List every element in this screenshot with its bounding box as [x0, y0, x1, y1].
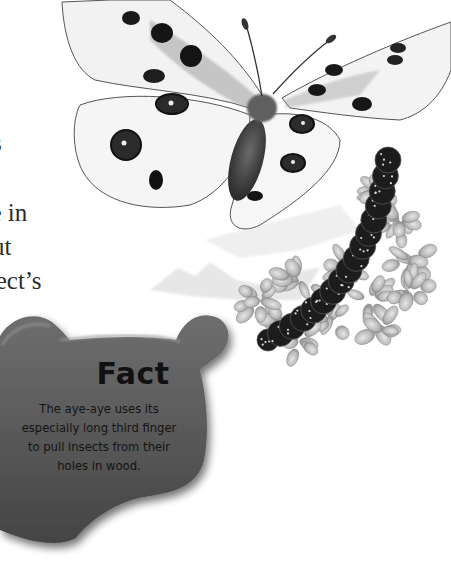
caterpillar-spot — [295, 312, 297, 314]
caterpillar-spot — [264, 341, 266, 343]
caterpillar-spot — [260, 338, 262, 340]
wing-spot — [122, 11, 140, 25]
caterpillar-spot — [308, 310, 310, 312]
wing-spot — [390, 43, 406, 53]
caterpillar-spot — [309, 317, 311, 319]
caterpillar-spot — [326, 287, 328, 289]
caterpillar-segment — [375, 147, 401, 173]
caterpillar-spot — [380, 153, 382, 155]
wing-spot — [325, 64, 343, 76]
fact-text-line: The aye-aye uses its — [6, 400, 192, 419]
butterfly-thorax — [247, 94, 277, 122]
caterpillar-spot — [360, 237, 362, 239]
caterpillar-spot — [271, 340, 273, 342]
fact-text-line: especially long third finger — [6, 419, 192, 438]
caterpillar-spot — [360, 265, 362, 267]
succulent-leaf — [284, 347, 301, 368]
wing-spot — [308, 84, 326, 96]
caterpillar-spot — [374, 192, 376, 194]
caterpillar-spot — [341, 284, 343, 286]
wing-spot — [387, 55, 403, 65]
fact-box: Fact The aye-aye uses its especially lon… — [0, 300, 250, 570]
succulent-leaf — [333, 323, 352, 342]
wing-spot — [151, 23, 173, 43]
caterpillar-spot — [383, 159, 385, 161]
wing-spot — [180, 45, 202, 67]
wing-spot — [352, 97, 372, 111]
caterpillar-spot — [389, 161, 391, 163]
caterpillar-spot — [287, 329, 289, 331]
caterpillar-spot — [378, 190, 380, 192]
succulent-leaf — [255, 306, 267, 322]
caterpillar-spot — [306, 323, 308, 325]
fact-text: The aye-aye uses its especially long thi… — [6, 400, 192, 476]
eye-spot — [111, 130, 141, 160]
caterpillar-spot — [262, 344, 264, 346]
caterpillar-spot — [359, 248, 361, 250]
caterpillar-spot — [383, 175, 385, 177]
caterpillar-spot — [363, 250, 365, 252]
caterpillar-spot — [315, 301, 317, 303]
caterpillar-spot — [305, 301, 307, 303]
caterpillar-spot — [287, 332, 289, 334]
caterpillar-spot — [390, 182, 392, 184]
fact-text-line: holes in wood. — [6, 457, 192, 476]
fact-text-line: to pull insects from their — [6, 438, 192, 457]
caterpillar-spot — [391, 175, 393, 177]
caterpillar-spot — [382, 164, 384, 166]
wing-spot — [143, 69, 165, 83]
caterpillar-spot — [348, 286, 350, 288]
caterpillar-spot — [367, 249, 369, 251]
wing-spot — [149, 170, 163, 190]
caterpillar-spot — [319, 299, 321, 301]
caterpillar-spot — [374, 205, 376, 207]
caterpillar-spot — [370, 234, 372, 236]
fact-title: Fact — [58, 356, 208, 391]
caterpillar-spot — [345, 276, 347, 278]
caterpillar-spot — [373, 236, 375, 238]
caterpillar-spot — [296, 310, 298, 312]
